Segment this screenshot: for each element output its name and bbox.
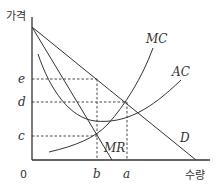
ac-label: AC bbox=[171, 65, 190, 79]
x-axis-label: 수량 bbox=[185, 169, 205, 182]
origin-label: 0 bbox=[20, 168, 27, 181]
mr-label: MR bbox=[103, 141, 125, 155]
e-label: e bbox=[18, 72, 25, 86]
a-label: a bbox=[123, 167, 130, 181]
y-axis-label: 가격 bbox=[6, 10, 26, 23]
economics-diagram: 가격 수량 0 e d c b a MC AC MR D bbox=[0, 0, 221, 187]
c-label: c bbox=[18, 129, 25, 143]
d-curve-label: D bbox=[179, 131, 190, 145]
d-label: d bbox=[18, 95, 26, 109]
mc-label: MC bbox=[145, 32, 167, 46]
mr-curve bbox=[32, 27, 112, 160]
b-label: b bbox=[93, 167, 101, 181]
ac-curve bbox=[38, 54, 181, 121]
